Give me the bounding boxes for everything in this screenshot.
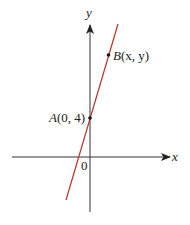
coordinate-diagram: y x 0 A(0, 4) B(x, y) bbox=[0, 0, 190, 225]
point-a-coords: (0, 4) bbox=[57, 110, 85, 125]
point-a-marker bbox=[88, 116, 92, 120]
x-axis-label: x bbox=[171, 149, 178, 164]
point-a-letter: A bbox=[48, 110, 57, 125]
point-a-label: A(0, 4) bbox=[48, 110, 85, 125]
point-b-marker bbox=[107, 53, 111, 57]
point-b-coords: (x, y) bbox=[121, 48, 149, 63]
point-b-letter: B bbox=[113, 48, 121, 63]
y-axis-label: y bbox=[84, 5, 92, 20]
origin-label: 0 bbox=[81, 158, 88, 173]
point-b-label: B(x, y) bbox=[113, 48, 149, 63]
